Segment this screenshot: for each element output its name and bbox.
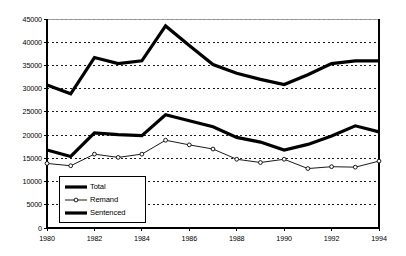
data-series-group bbox=[45, 26, 381, 170]
x-tick-label-1988: 1988 bbox=[217, 234, 257, 243]
y-tick-label-45000: 45000 bbox=[23, 15, 43, 24]
chart-container: 0500010000150002000025000300003500040000… bbox=[0, 0, 406, 256]
series-marker-remand-1992 bbox=[330, 165, 334, 169]
series-marker-remand-1994 bbox=[377, 159, 381, 163]
y-tick-label-40000: 40000 bbox=[23, 38, 43, 47]
x-tick-label-1994: 1994 bbox=[359, 234, 399, 243]
series-marker-remand-1983 bbox=[116, 156, 120, 160]
y-tick-label-35000: 35000 bbox=[23, 61, 43, 70]
series-marker-remand-1981 bbox=[69, 164, 73, 168]
legend-label-total: Total bbox=[90, 182, 106, 191]
y-tick-label-20000: 20000 bbox=[23, 131, 43, 140]
legend-label-remand: Remand bbox=[90, 195, 118, 204]
x-tick-label-1980: 1980 bbox=[27, 234, 67, 243]
y-tick-label-10000: 10000 bbox=[23, 177, 43, 186]
y-tick-label-15000: 15000 bbox=[23, 154, 43, 163]
x-tick-label-1984: 1984 bbox=[122, 234, 162, 243]
series-marker-remand-1985 bbox=[164, 138, 168, 142]
series-marker-remand-1987 bbox=[211, 147, 215, 151]
series-marker-remand-1986 bbox=[187, 143, 191, 147]
y-tick-label-0: 0 bbox=[38, 224, 42, 233]
legend-marker-remand bbox=[74, 198, 78, 202]
series-marker-remand-1982 bbox=[93, 152, 97, 156]
x-tick-label-1986: 1986 bbox=[169, 234, 209, 243]
x-tick-label-1990: 1990 bbox=[264, 234, 304, 243]
x-tick-label-1992: 1992 bbox=[312, 234, 352, 243]
series-marker-remand-1990 bbox=[282, 157, 286, 161]
series-marker-remand-1988 bbox=[235, 157, 239, 161]
series-line-total bbox=[47, 26, 379, 94]
series-marker-remand-1984 bbox=[140, 152, 144, 156]
y-tick-label-25000: 25000 bbox=[23, 107, 43, 116]
series-line-remand bbox=[47, 140, 379, 168]
y-tick-label-30000: 30000 bbox=[23, 84, 43, 93]
series-marker-remand-1993 bbox=[353, 165, 357, 169]
y-tick-label-5000: 5000 bbox=[26, 200, 42, 209]
series-marker-remand-1991 bbox=[306, 167, 310, 171]
legend-label-sentenced: Sentenced bbox=[90, 208, 125, 217]
series-marker-remand-1980 bbox=[45, 162, 49, 166]
series-marker-remand-1989 bbox=[259, 161, 263, 165]
x-tick-label-1982: 1982 bbox=[74, 234, 114, 243]
chart-plot-svg bbox=[0, 0, 406, 256]
